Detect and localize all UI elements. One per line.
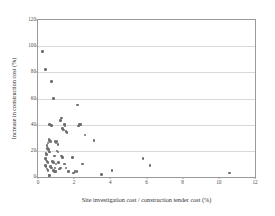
- y-tick-mark: [36, 124, 38, 125]
- y-tick-label: 40: [31, 122, 36, 127]
- x-tick-label: 12: [252, 180, 257, 185]
- data-point: [59, 119, 62, 122]
- data-point: [63, 163, 66, 166]
- x-axis-title: Site investigation cost / construction t…: [37, 196, 256, 203]
- y-tick-mark: [36, 150, 38, 151]
- data-point: [100, 173, 103, 176]
- y-tick-label: 0: [33, 174, 36, 179]
- data-point: [53, 155, 56, 158]
- data-point: [52, 97, 55, 100]
- data-point: [61, 156, 64, 159]
- data-point: [81, 163, 84, 166]
- y-tick-mark: [36, 72, 38, 73]
- data-point: [59, 167, 62, 170]
- x-tick-label: 0: [37, 180, 40, 185]
- plot-area: 020406080100120024681012: [37, 19, 256, 178]
- data-point: [77, 125, 80, 128]
- data-point: [48, 174, 51, 177]
- y-tick-label: 80: [31, 70, 36, 75]
- data-point: [149, 164, 152, 167]
- x-tick-label: 2: [73, 180, 76, 185]
- data-point: [48, 151, 51, 154]
- data-point: [41, 50, 44, 53]
- data-point: [142, 157, 145, 160]
- data-point: [55, 170, 58, 173]
- y-axis-title: Increase in construction cost (%): [10, 19, 18, 178]
- y-tick-mark: [36, 20, 38, 21]
- data-point: [45, 153, 48, 156]
- data-point: [76, 170, 79, 173]
- data-point: [76, 104, 79, 107]
- data-point: [57, 143, 60, 146]
- data-point: [49, 140, 52, 143]
- data-point: [93, 139, 96, 142]
- data-point: [228, 172, 231, 175]
- x-tick-label: 10: [216, 180, 221, 185]
- y-tick-label: 120: [28, 17, 36, 22]
- data-point: [66, 131, 69, 134]
- data-point: [64, 125, 67, 128]
- data-point: [44, 68, 47, 71]
- data-point: [50, 80, 53, 83]
- data-point: [47, 161, 50, 164]
- y-tick-mark: [36, 46, 38, 47]
- x-tick-label: 4: [109, 180, 112, 185]
- scatter-chart-figure: 020406080100120024681012 Increase in con…: [0, 0, 275, 216]
- y-tick-mark: [36, 98, 38, 99]
- y-tick-label: 100: [28, 44, 36, 49]
- data-point: [57, 151, 60, 154]
- y-axis-title-text: Increase in construction cost (%): [11, 58, 18, 139]
- data-point: [50, 124, 53, 127]
- data-point: [67, 170, 70, 173]
- y-tick-label: 20: [31, 148, 36, 153]
- data-point: [84, 134, 87, 137]
- x-tick-label: 6: [145, 180, 148, 185]
- data-points-layer: [38, 20, 255, 177]
- data-point: [65, 167, 68, 170]
- x-tick-label: 8: [181, 180, 184, 185]
- data-point: [111, 169, 114, 172]
- data-point: [57, 161, 60, 164]
- y-tick-label: 60: [31, 96, 36, 101]
- data-point: [71, 156, 74, 159]
- data-point: [47, 169, 50, 172]
